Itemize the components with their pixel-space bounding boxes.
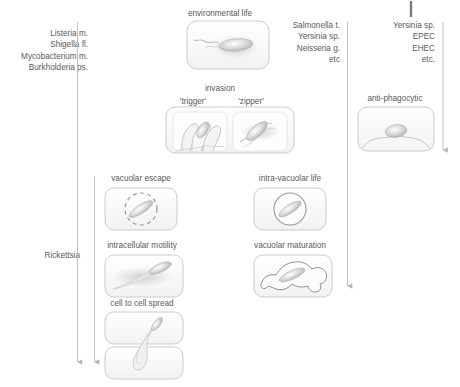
- panel-environmental-life: [187, 21, 269, 69]
- subpanel-trigger: [173, 112, 227, 151]
- panel-vacuolar-maturation: [254, 255, 332, 297]
- panel-intracellular-motility: [105, 255, 183, 297]
- diagram-canvas: Listeria m. Shigella fl. Mycobacterium m…: [0, 0, 460, 387]
- panel-anti-phagocytic: [358, 107, 434, 151]
- panel-vacuolar-escape: [105, 188, 177, 230]
- panel-cell-to-cell-spread: [105, 312, 183, 379]
- solid-vacuole-icon: [274, 193, 306, 225]
- panel-invasion: [166, 107, 294, 153]
- subpanel-zipper: [233, 112, 287, 151]
- panel-intra-vacuolar-life: [254, 188, 326, 230]
- diagram-artwork: [0, 0, 460, 387]
